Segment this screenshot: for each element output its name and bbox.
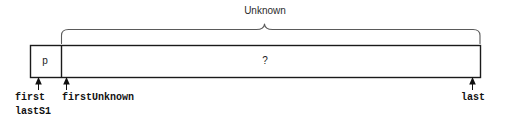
diagram-canvas: Unknown p ? first lastS1 firstUnkno	[0, 0, 507, 120]
pointer-label-first: first	[15, 92, 45, 103]
pointer-label-last: last	[461, 92, 485, 103]
cell-label-p: p	[30, 55, 60, 66]
pointer-arrow-first	[35, 77, 42, 90]
cell-label-unknown: ?	[235, 55, 295, 66]
pointer-arrow-last	[469, 77, 476, 90]
pointer-label-firstunknown: firstUnknown	[62, 92, 134, 103]
pointer-label-lasts1: lastS1	[15, 106, 51, 117]
unknown-brace	[62, 24, 481, 44]
pointer-arrow-firstunknown	[63, 77, 70, 90]
